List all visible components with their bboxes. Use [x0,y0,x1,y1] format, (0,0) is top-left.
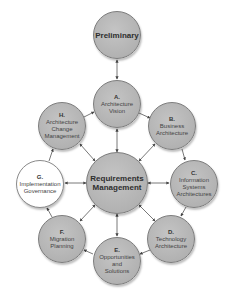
node-b-letter: B. [169,116,175,123]
node-c-letter: C. [191,170,197,177]
arrow-center-d [139,205,155,221]
node-c-line1: Information [179,177,209,184]
node-h-line2: Change [51,126,72,133]
node-f-line1: Migration [50,236,75,243]
node-c-line2: Systems [182,184,205,191]
node-b-line2: Architecture [156,130,188,137]
node-a-line2: Vision [109,108,125,115]
node-d-technology-architecture: D. Technology Architecture [147,215,195,263]
node-d-line1: Technology [156,236,186,243]
node-g-implementation-governance: G. Implementation Governance [16,160,64,208]
node-preliminary-label: Preliminary [95,31,139,40]
node-a-letter: A. [114,94,120,101]
node-e-line2: and [112,261,122,268]
node-b-line1: Business [160,123,184,130]
node-d-line2: Architecture [155,243,187,250]
node-f-migration-planning: F. Migration Planning [38,215,86,263]
arrow-d-e [140,250,150,254]
center-line2: Management [93,183,142,192]
node-e-letter: E. [114,247,120,254]
node-a-architecture-vision: A. Architecture Vision [93,80,141,128]
arrow-h-a [84,112,94,117]
node-g-letter: G. [37,174,43,181]
arrow-e-f [84,250,93,254]
node-h-line3: Management [44,133,79,140]
node-f-line2: Planning [50,243,73,250]
node-h-letter: H. [59,112,65,119]
node-b-business-architecture: B. Business Architecture [148,102,196,150]
node-c-information-systems-architectures: C. Information Systems Architectures [170,160,218,208]
node-f-letter: F. [60,229,65,236]
node-e-opportunities-and-solutions: E. Opportunities and Solutions [93,237,141,285]
node-e-line3: Solutions [105,268,130,275]
arrow-b-c [182,149,185,160]
node-requirements-management: Requirements Management [86,152,148,214]
node-h-line1: Architecture [46,119,78,126]
arrow-c-d [181,207,186,216]
arrow-center-h [80,144,95,161]
node-c-line3: Architectures [176,191,211,198]
node-h-architecture-change-management: H. Architecture Change Management [38,102,86,150]
node-preliminary: Preliminary [93,11,141,59]
node-g-line1: Implementation [19,181,60,188]
node-d-letter: D. [168,229,174,236]
node-e-line1: Opportunities [99,254,135,261]
node-g-line2: Governance [24,188,57,195]
arrow-g-h [49,149,53,161]
arrow-center-b [139,144,155,161]
node-a-line1: Architecture [101,101,133,108]
arrow-center-f [80,205,95,221]
arrow-f-g [47,208,52,217]
center-line1: Requirements [90,174,143,183]
